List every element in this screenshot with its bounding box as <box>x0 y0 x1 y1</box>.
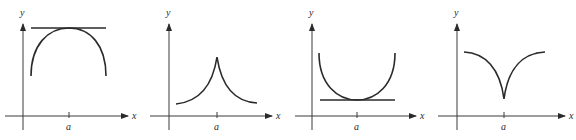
tick-label-a: a <box>66 121 71 132</box>
curve-smooth-minimum <box>319 53 395 100</box>
panel-2: y x a <box>150 7 281 132</box>
curve-cusp-minimum <box>464 52 545 99</box>
curve-smooth-maximum <box>31 28 106 76</box>
tick-label-a: a <box>501 121 506 132</box>
x-axis-label: x <box>568 110 574 121</box>
curve-cusp-maximum <box>176 57 257 104</box>
x-axis-label: x <box>275 110 281 121</box>
panel-3: y x a <box>295 7 425 132</box>
y-axis-label: y <box>165 7 171 18</box>
tick-label-a: a <box>214 121 219 132</box>
figure-canvas: y x a y x a y x a y x a <box>0 0 576 140</box>
x-axis-label: x <box>419 110 425 121</box>
panel-1: y x a <box>5 7 137 132</box>
x-axis-label: x <box>131 110 137 121</box>
y-axis-label: y <box>308 7 314 18</box>
tick-label-a: a <box>354 121 359 132</box>
y-axis-label: y <box>453 7 459 18</box>
panel-4: y x a <box>438 7 574 132</box>
y-axis-label: y <box>19 7 25 18</box>
